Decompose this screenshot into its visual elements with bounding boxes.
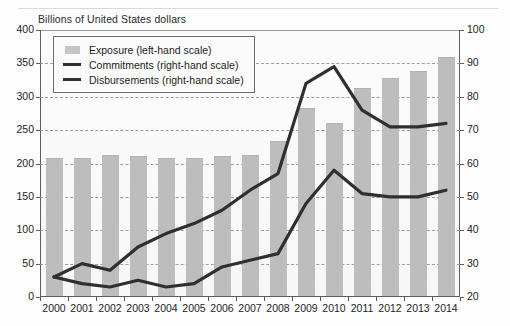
legend-item-commitments: Commitments (right-hand scale)	[62, 57, 244, 72]
left-axis-tick-label: 400	[16, 23, 34, 35]
legend-label-disbursements: Disbursements (right-hand scale)	[89, 74, 244, 86]
right-axis-tick-mark	[460, 264, 464, 265]
right-axis-tick-label: 20	[467, 290, 479, 302]
right-axis-tick-label: 50	[467, 190, 479, 202]
x-axis-label-2007: 2007	[236, 302, 264, 314]
x-axis-tick-mark	[96, 297, 97, 301]
figure-top-rule	[18, 8, 498, 9]
right-axis-tick-label: 40	[467, 223, 479, 235]
left-axis-tick-label: 50	[22, 257, 34, 269]
legend-label-commitments: Commitments (right-hand scale)	[89, 59, 238, 71]
right-axis-tick-mark	[460, 130, 464, 131]
x-axis-tick-mark	[460, 297, 461, 301]
line-swatch-icon	[62, 78, 82, 81]
line-swatch-icon	[62, 63, 82, 66]
left-axis-tick-label: 100	[16, 223, 34, 235]
x-axis-tick-mark	[124, 297, 125, 301]
right-axis-tick-mark	[460, 164, 464, 165]
x-axis-tick-mark	[208, 297, 209, 301]
x-axis-tick-mark	[40, 297, 41, 301]
chart-figure: Billions of United States dollars 050100…	[0, 0, 510, 326]
x-axis-label-2013: 2013	[404, 302, 432, 314]
line-commitments	[54, 67, 446, 277]
x-axis-tick-mark	[376, 297, 377, 301]
right-axis-tick-mark	[460, 30, 464, 31]
x-axis-label-2009: 2009	[292, 302, 320, 314]
right-axis-tick-label: 100	[467, 23, 485, 35]
x-axis-label-2005: 2005	[180, 302, 208, 314]
right-axis-tick-mark	[460, 97, 464, 98]
x-axis-label-2012: 2012	[376, 302, 404, 314]
x-axis-tick-mark	[180, 297, 181, 301]
left-axis-tick-label: 200	[16, 157, 34, 169]
x-axis-tick-mark	[432, 297, 433, 301]
left-axis-tick-label: 150	[16, 190, 34, 202]
x-axis-tick-mark	[236, 297, 237, 301]
bar-swatch-icon	[62, 46, 82, 54]
left-axis-tick-label: 350	[16, 56, 34, 68]
right-axis-tick-label: 80	[467, 90, 479, 102]
right-axis-tick-label: 60	[467, 157, 479, 169]
left-axis-tick-label: 300	[16, 90, 34, 102]
x-axis-tick-mark	[348, 297, 349, 301]
chart-legend: Exposure (left-hand scale) Commitments (…	[53, 36, 255, 93]
x-axis-label-2003: 2003	[124, 302, 152, 314]
right-axis-tick-mark	[460, 230, 464, 231]
x-axis-tick-mark	[152, 297, 153, 301]
x-axis-label-2008: 2008	[264, 302, 292, 314]
left-axis-tick-label: 250	[16, 123, 34, 135]
left-axis-tick-label: 0	[28, 290, 34, 302]
right-axis-tick-mark	[460, 63, 464, 64]
x-axis-tick-mark	[292, 297, 293, 301]
x-axis-label-2014: 2014	[432, 302, 460, 314]
x-axis-label-2011: 2011	[348, 302, 376, 314]
right-axis-tick-label: 90	[467, 56, 479, 68]
x-axis-label-2002: 2002	[96, 302, 124, 314]
x-axis-label-2006: 2006	[208, 302, 236, 314]
x-axis-label-2001: 2001	[68, 302, 96, 314]
x-axis-label-2010: 2010	[320, 302, 348, 314]
legend-item-disbursements: Disbursements (right-hand scale)	[62, 72, 244, 87]
x-axis-tick-mark	[264, 297, 265, 301]
right-axis-tick-label: 70	[467, 123, 479, 135]
legend-label-exposure: Exposure (left-hand scale)	[89, 44, 212, 56]
legend-item-exposure: Exposure (left-hand scale)	[62, 42, 244, 57]
x-axis-label-2000: 2000	[40, 302, 68, 314]
axis-unit-label: Billions of United States dollars	[38, 13, 186, 25]
x-axis-tick-mark	[320, 297, 321, 301]
right-axis-tick-mark	[460, 197, 464, 198]
x-axis-tick-mark	[68, 297, 69, 301]
x-axis-tick-mark	[404, 297, 405, 301]
x-axis-label-2004: 2004	[152, 302, 180, 314]
right-axis-tick-label: 30	[467, 257, 479, 269]
